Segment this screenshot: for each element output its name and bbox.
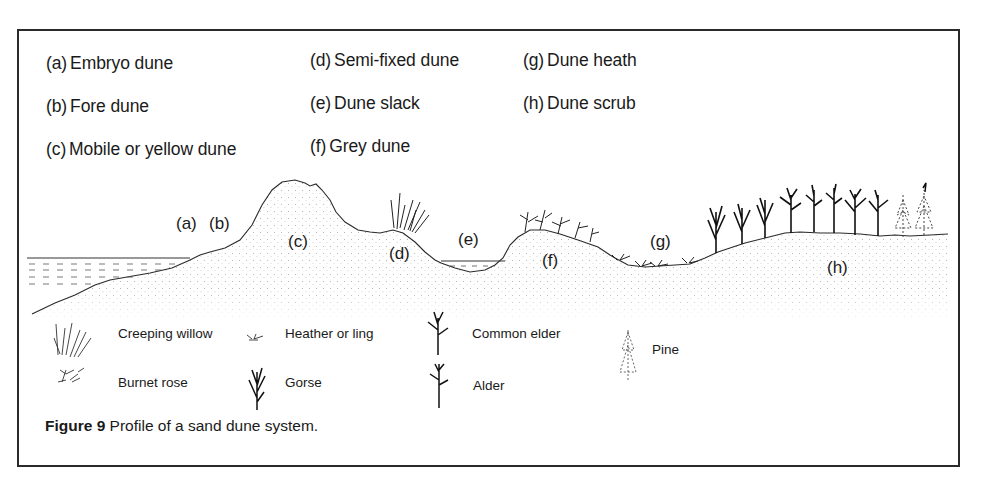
profile-label-h: (h) [827, 258, 848, 278]
profile-label-a: (a) [176, 214, 197, 234]
creeping-willow-icon [54, 323, 91, 357]
legend-label: Common elder [472, 326, 561, 341]
figure-number: Figure 9 [45, 417, 105, 434]
pine-trees [895, 190, 933, 237]
legend-item-pine: Pine [629, 342, 679, 357]
creeping-willow-plant [391, 193, 429, 233]
legend-item-creeping-willow: Creeping willow [118, 326, 213, 341]
profile-label-g: (g) [650, 232, 671, 252]
heather-icon [247, 334, 263, 340]
dune-profile-drawing [0, 0, 994, 484]
alder-trees [845, 189, 888, 236]
profile-label-f: (f) [542, 251, 558, 271]
legend-item-common-elder: Common elder [472, 326, 561, 341]
legend-label: Pine [652, 342, 679, 357]
legend-label: Alder [473, 378, 505, 393]
burnet-rose-icon [58, 368, 84, 382]
figure-caption: Figure 9 Profile of a sand dune system. [45, 417, 318, 435]
legend-item-alder: Alder [473, 378, 505, 393]
profile-label-e: (e) [458, 230, 479, 250]
legend-label: Gorse [285, 375, 322, 390]
legend-item-heather: Heather or ling [285, 326, 374, 341]
legend-item-gorse: Gorse [285, 375, 322, 390]
legend-label: Heather or ling [285, 326, 374, 341]
profile-label-c: (c) [288, 232, 308, 252]
profile-label-d: (d) [389, 244, 410, 264]
legend-item-burnet-rose: Burnet rose [118, 375, 188, 390]
common-elder-trees [780, 184, 842, 233]
gorse-icon [249, 368, 265, 410]
legend-label: Creeping willow [118, 326, 213, 341]
legend-label: Burnet rose [118, 375, 188, 390]
pine-tip [923, 183, 926, 192]
profile-label-b: (b) [209, 214, 230, 234]
alder-icon [430, 364, 448, 408]
figure-caption-text: Profile of a sand dune system. [105, 417, 318, 434]
